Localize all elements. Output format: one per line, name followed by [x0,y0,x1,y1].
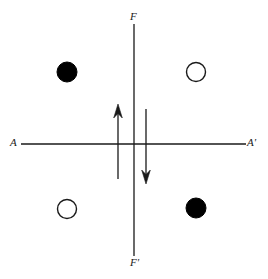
diagram-canvas [0,0,268,279]
axis-label-A-prime: A' [247,137,256,148]
axis-label-A: A [10,137,17,148]
circle-bottom-right-filled [186,198,206,218]
axis-label-F: F [130,11,137,22]
circle-bottom-left-open [58,200,77,219]
arrow-up-left [114,104,123,179]
figure-container: F F' A A' [0,0,268,279]
circle-top-right-open [187,63,206,82]
arrow-down-right [142,109,151,184]
circle-top-left-filled [57,62,77,82]
axis-label-F-prime: F' [130,257,139,268]
